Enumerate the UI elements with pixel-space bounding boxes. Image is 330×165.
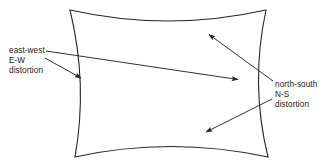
north-south-label-line-2: N-S <box>275 90 317 100</box>
east-west-arrow-group <box>45 51 238 80</box>
east-west-label-line-1: east-west <box>9 46 45 56</box>
pincushion-shape-group <box>70 10 268 157</box>
shape-top-edge <box>70 10 266 21</box>
north-south-arrow-group <box>206 35 273 133</box>
north-south-upper-arrow <box>209 35 273 82</box>
pincushion-distortion-figure: east-west E-W distortion north-south N-S… <box>0 0 330 165</box>
east-west-distortion-label: east-west E-W distortion <box>9 46 45 76</box>
east-west-long-arrow <box>46 51 238 80</box>
east-west-label-line-2: E-W <box>9 56 45 66</box>
shape-right-edge <box>258 10 268 157</box>
east-west-label-line-3: distortion <box>9 66 45 76</box>
north-south-distortion-label: north-south N-S distortion <box>275 80 317 110</box>
east-west-short-arrow <box>45 58 81 78</box>
north-south-label-line-3: distortion <box>275 100 317 110</box>
shape-bottom-edge <box>75 147 268 158</box>
shape-left-edge <box>70 10 80 157</box>
north-south-label-line-1: north-south <box>275 80 317 90</box>
